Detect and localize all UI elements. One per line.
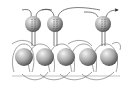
sphere-markings [32, 19, 105, 29]
top-sphere [95, 16, 111, 32]
top-sphere-row [25, 16, 111, 32]
bottom-sphere [57, 48, 75, 66]
bottom-sphere [100, 48, 118, 66]
bottom-sphere-row [15, 48, 118, 66]
bottom-sphere [36, 48, 54, 66]
top-sphere [25, 16, 41, 32]
bottom-sphere [79, 48, 97, 66]
top-sphere [47, 16, 63, 32]
bottom-sphere [15, 48, 33, 66]
diagram [0, 0, 128, 85]
top-strands [22, 8, 118, 17]
